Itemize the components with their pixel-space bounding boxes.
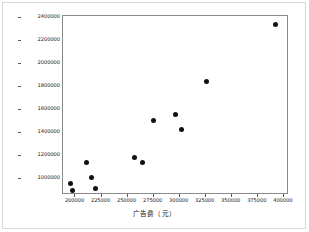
y-axis-tick <box>18 155 21 156</box>
x-axis-tick-label: 200000 <box>65 198 84 203</box>
plot-area <box>62 15 288 194</box>
data-point <box>93 186 98 191</box>
x-axis-tick-label: 250000 <box>117 198 136 203</box>
x-axis-tick-label: 225000 <box>91 198 110 203</box>
y-axis-tick <box>18 178 21 179</box>
y-axis-tick <box>18 86 21 87</box>
y-axis-tick-label: 1800000 <box>38 84 60 89</box>
data-point <box>70 188 75 193</box>
x-axis-tick-label: 275000 <box>143 198 162 203</box>
y-axis-tick-label: 2200000 <box>38 38 60 43</box>
x-axis-tick-label: 350000 <box>221 198 240 203</box>
x-axis-title: 广告费（元） <box>0 208 309 218</box>
y-axis-tick-label: 2400000 <box>38 15 60 20</box>
y-axis-tick <box>18 40 21 41</box>
data-point <box>273 22 278 27</box>
x-axis-tick-label: 400000 <box>273 198 292 203</box>
y-axis-tick <box>18 17 21 18</box>
y-axis-tick <box>18 132 21 133</box>
y-axis-tick-label: 1000000 <box>38 175 60 180</box>
y-axis-tick-label: 1400000 <box>38 129 60 134</box>
data-point <box>179 127 184 132</box>
x-axis-tick-label: 375000 <box>247 198 266 203</box>
y-axis-tick-label: 1200000 <box>38 152 60 157</box>
x-axis-tick-label: 300000 <box>169 198 188 203</box>
scatter-chart-figure: 销售收入（元） 广告费（元） 1000000120000014000001600… <box>0 0 309 232</box>
data-point <box>132 155 137 160</box>
data-point <box>204 79 209 84</box>
y-axis-tick <box>18 109 21 110</box>
x-axis-tick-label: 325000 <box>195 198 214 203</box>
data-point-layer <box>63 16 287 193</box>
data-point <box>151 118 156 123</box>
data-point <box>140 160 145 165</box>
data-point <box>89 175 94 180</box>
y-axis-tick-label: 1600000 <box>38 106 60 111</box>
data-point <box>173 112 178 117</box>
y-axis-tick-label: 2000000 <box>38 61 60 66</box>
data-point <box>84 160 89 165</box>
data-point <box>68 181 73 186</box>
y-axis-tick <box>18 63 21 64</box>
